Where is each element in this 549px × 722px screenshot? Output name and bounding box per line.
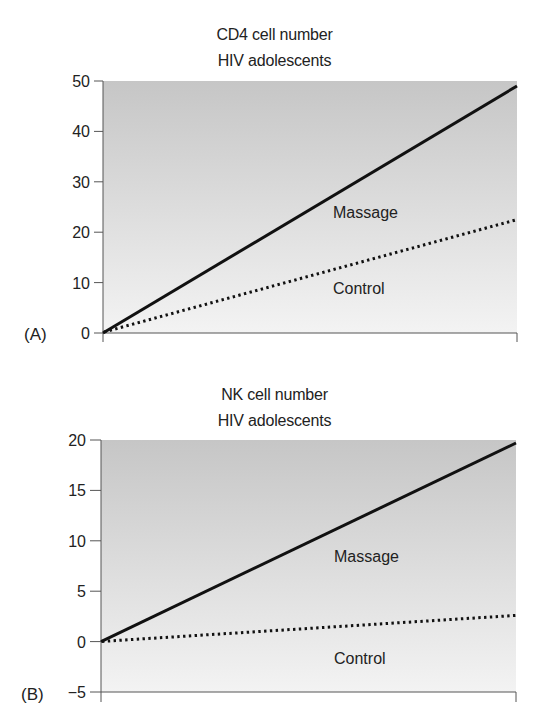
chart-b-massage-label: Massage: [334, 548, 399, 565]
chart-b: NK cell number HIV adolescents −5 0 5 10: [0, 360, 549, 722]
chart-a-y-tick-labels: 0 10 20 30 40 50: [72, 73, 90, 342]
svg-text:−5: −5: [68, 684, 86, 701]
chart-b-y-ticks: [90, 440, 101, 692]
chart-a-panel-label: (A): [24, 325, 47, 344]
chart-a-control-label: Control: [333, 280, 385, 297]
chart-b-control-label: Control: [334, 650, 386, 667]
svg-text:40: 40: [72, 123, 90, 140]
svg-text:0: 0: [81, 325, 90, 342]
chart-b-plot: −5 0 5 10 15 20 Massage Control (B): [0, 360, 549, 722]
svg-text:10: 10: [72, 275, 90, 292]
chart-b-plot-area: [101, 440, 516, 692]
svg-text:15: 15: [68, 482, 86, 499]
chart-b-panel-label: (B): [21, 685, 44, 704]
svg-text:10: 10: [68, 533, 86, 550]
svg-text:50: 50: [72, 73, 90, 90]
chart-a: CD4 cell number HIV adolescents 0 10 20: [0, 0, 549, 360]
chart-a-plot: 0 10 20 30 40 50 Massage Control (A): [0, 0, 549, 360]
svg-text:30: 30: [72, 174, 90, 191]
svg-text:5: 5: [77, 583, 86, 600]
chart-a-y-ticks: [94, 81, 103, 333]
svg-text:0: 0: [77, 634, 86, 651]
chart-a-massage-label: Massage: [333, 204, 398, 221]
chart-b-y-tick-labels: −5 0 5 10 15 20: [68, 432, 86, 701]
svg-text:20: 20: [68, 432, 86, 449]
svg-text:20: 20: [72, 224, 90, 241]
